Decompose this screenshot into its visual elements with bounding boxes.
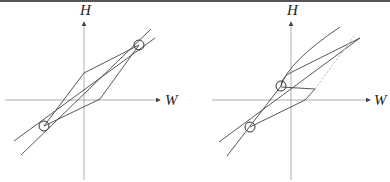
left-h-label: H: [80, 3, 91, 18]
right-steep-line: [227, 86, 281, 156]
diagram-canvas: [0, 0, 390, 182]
right-w-label: W: [374, 93, 387, 108]
right-inner-branch: [281, 38, 360, 86]
right-loop: [250, 87, 315, 127]
right-h-label: H: [287, 3, 298, 18]
right-panel: [212, 22, 370, 180]
right-dotted-line: [315, 35, 355, 89]
left-loop: [44, 45, 139, 126]
left-w-label: W: [165, 93, 178, 108]
left-shallow-line: [14, 38, 155, 141]
right-shallow-line: [219, 38, 360, 142]
right-curved-branch: [281, 27, 340, 86]
left-panel: [5, 22, 160, 180]
left-steep-line: [21, 29, 151, 155]
